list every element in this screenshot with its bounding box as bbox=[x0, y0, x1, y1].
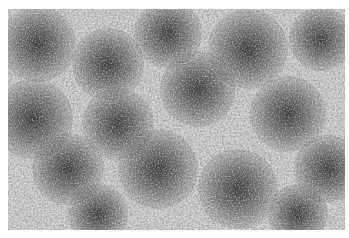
speckled-texture-photo bbox=[8, 9, 345, 230]
speckle-overlay bbox=[8, 9, 345, 230]
